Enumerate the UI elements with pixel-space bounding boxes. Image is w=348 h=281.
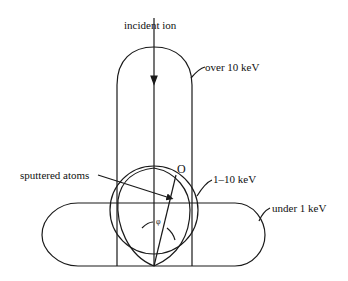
incident-arrow-icon (151, 76, 157, 84)
sputtered-atoms-pointer (98, 175, 170, 198)
1-10kev-label: 1–10 keV (213, 174, 256, 185)
point-o-label: O (177, 163, 186, 175)
phi-angle-arc-right (167, 228, 175, 240)
angle-phi-label: φ (156, 218, 161, 226)
under-1kev-label: under 1 keV (272, 203, 326, 214)
over-10kev-leader (191, 67, 205, 78)
sputtered-atoms-label: sputtered atoms (20, 170, 89, 181)
phi-angle-arc-left (142, 222, 153, 228)
1-10kev-leader (197, 180, 212, 196)
incident-ion-label: incident ion (124, 20, 176, 31)
sputtering-distribution-diagram (0, 0, 348, 281)
over-10kev-label: over 10 keV (205, 62, 259, 73)
